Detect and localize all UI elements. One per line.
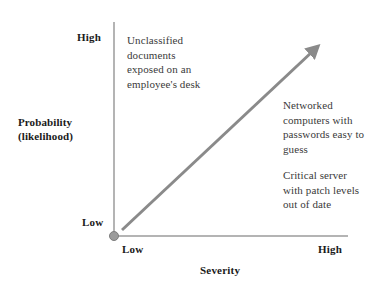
y-axis-title: Probability (likelihood) [18, 115, 110, 143]
annotation-unclassified-documents: Unclassified documents exposed on an emp… [127, 33, 205, 91]
y-axis-title-line-1: Probability [18, 115, 110, 129]
y-axis-high-label: High [77, 31, 101, 43]
y-axis-low-label: Low [82, 216, 103, 228]
annotation-critical-server: Critical server with patch levels out of… [283, 168, 365, 212]
x-axis-high-label: High [318, 243, 342, 255]
x-axis-low-label: Low [122, 243, 143, 255]
risk-matrix-chart: High Low Low High Severity Probability (… [0, 0, 379, 289]
y-axis-line [113, 22, 115, 237]
x-axis-title: Severity [200, 264, 240, 276]
y-axis-title-line-2: (likelihood) [18, 129, 110, 143]
annotation-networked-computers: Networked computers with passwords easy … [283, 98, 367, 156]
origin-marker-dot [109, 231, 119, 241]
x-axis-line [113, 235, 348, 237]
